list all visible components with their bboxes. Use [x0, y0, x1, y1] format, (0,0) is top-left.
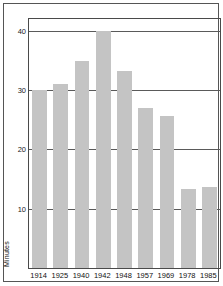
- x-tick-label-1948: 1948: [115, 271, 132, 280]
- x-tick-label-1925: 1925: [51, 271, 68, 280]
- bar-1957: [138, 108, 153, 268]
- x-tick-label-1985: 1985: [200, 271, 217, 280]
- bar-1969: [160, 116, 175, 268]
- x-tick-label-1969: 1969: [158, 271, 175, 280]
- y-tick-label: 40: [18, 26, 26, 35]
- y-axis-title: Minutes: [3, 241, 10, 267]
- x-tick-label-1942: 1942: [94, 271, 111, 280]
- y-tick-label: 30: [18, 86, 26, 95]
- x-tick-label-1978: 1978: [179, 271, 196, 280]
- x-tick-label-1957: 1957: [136, 271, 153, 280]
- bar-1940: [75, 61, 90, 269]
- bar-1948: [117, 71, 132, 268]
- bar-1925: [53, 84, 68, 268]
- x-tick-label-1940: 1940: [73, 271, 90, 280]
- x-tick-label-1914: 1914: [30, 271, 47, 280]
- bar-1942: [96, 31, 111, 268]
- y-tick-label: 10: [18, 204, 26, 213]
- bar-1985: [202, 187, 217, 268]
- bar-1914: [32, 90, 47, 268]
- chart-frame: Minutes 10203040 19141925194019421948195…: [3, 3, 219, 282]
- bar-series: [29, 19, 220, 268]
- plot-area: 10203040: [28, 18, 221, 269]
- bar-1978: [181, 189, 196, 268]
- x-axis-tick-labels: 191419251940194219481957196919781985: [28, 271, 221, 285]
- y-tick-label: 20: [18, 145, 26, 154]
